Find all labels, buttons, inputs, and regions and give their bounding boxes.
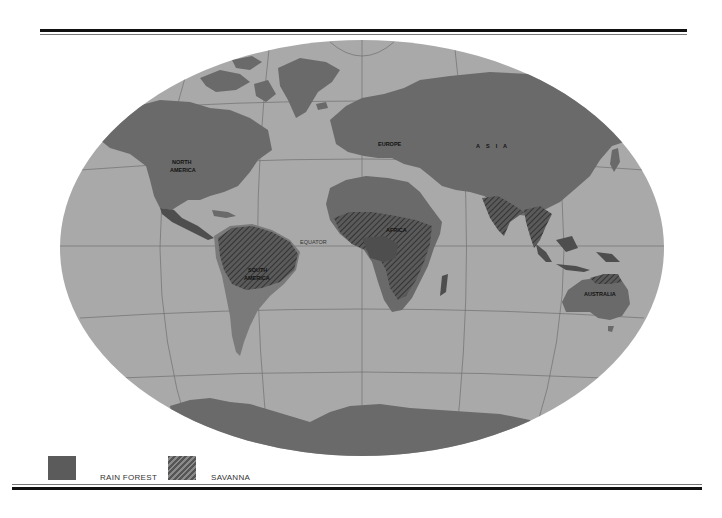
label-australia: AUSTRALIA <box>584 291 616 297</box>
savanna-swatch <box>168 456 196 480</box>
bottom-rule <box>12 487 702 490</box>
label-europe: EUROPE <box>378 141 402 147</box>
label-asia: A S I A <box>476 143 507 149</box>
rain-forest-label: RAIN FOREST <box>100 473 157 482</box>
label-equator: EQUATOR <box>300 239 327 245</box>
world-map: NORTH AMERICA SOUTH AMERICA EUROPE A S I… <box>0 0 722 518</box>
bottom-rule-thin <box>12 484 702 485</box>
label-north-america-1: NORTH <box>172 159 192 165</box>
label-south-america-1: SOUTH <box>248 267 267 273</box>
label-south-america-2: AMERICA <box>244 275 270 281</box>
new-zealand <box>650 310 660 324</box>
label-north-america-2: AMERICA <box>170 167 196 173</box>
label-africa: AFRICA <box>386 227 407 233</box>
savanna-label: SAVANNA <box>211 473 250 482</box>
rain-forest-swatch <box>48 456 76 480</box>
